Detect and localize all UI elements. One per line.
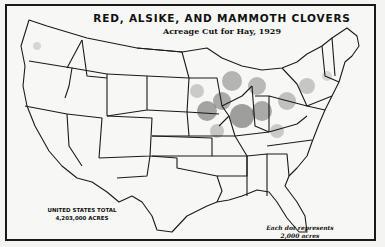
map-title: RED, ALSIKE, AND MAMMOTH CLOVERS bbox=[87, 12, 357, 24]
map-subtitle: Acreage Cut for Hay, 1929 bbox=[87, 26, 357, 36]
dot-clusters bbox=[33, 42, 332, 138]
us-total-line1: UNITED STATES TOTAL bbox=[37, 206, 127, 214]
map-frame: RED, ALSIKE, AND MAMMOTH CLOVERS Acreage… bbox=[5, 4, 376, 241]
us-dot-map bbox=[7, 6, 374, 239]
us-total-line2: 4,203,000 ACRES bbox=[37, 214, 127, 222]
us-total-label: UNITED STATES TOTAL 4,203,000 ACRES bbox=[37, 206, 127, 222]
dot-legend: Each dot represents 2,000 acres bbox=[265, 224, 335, 240]
legend-line2: 2,000 acres bbox=[265, 232, 335, 240]
legend-line1: Each dot represents bbox=[265, 224, 335, 232]
state-boundaries bbox=[21, 20, 359, 232]
